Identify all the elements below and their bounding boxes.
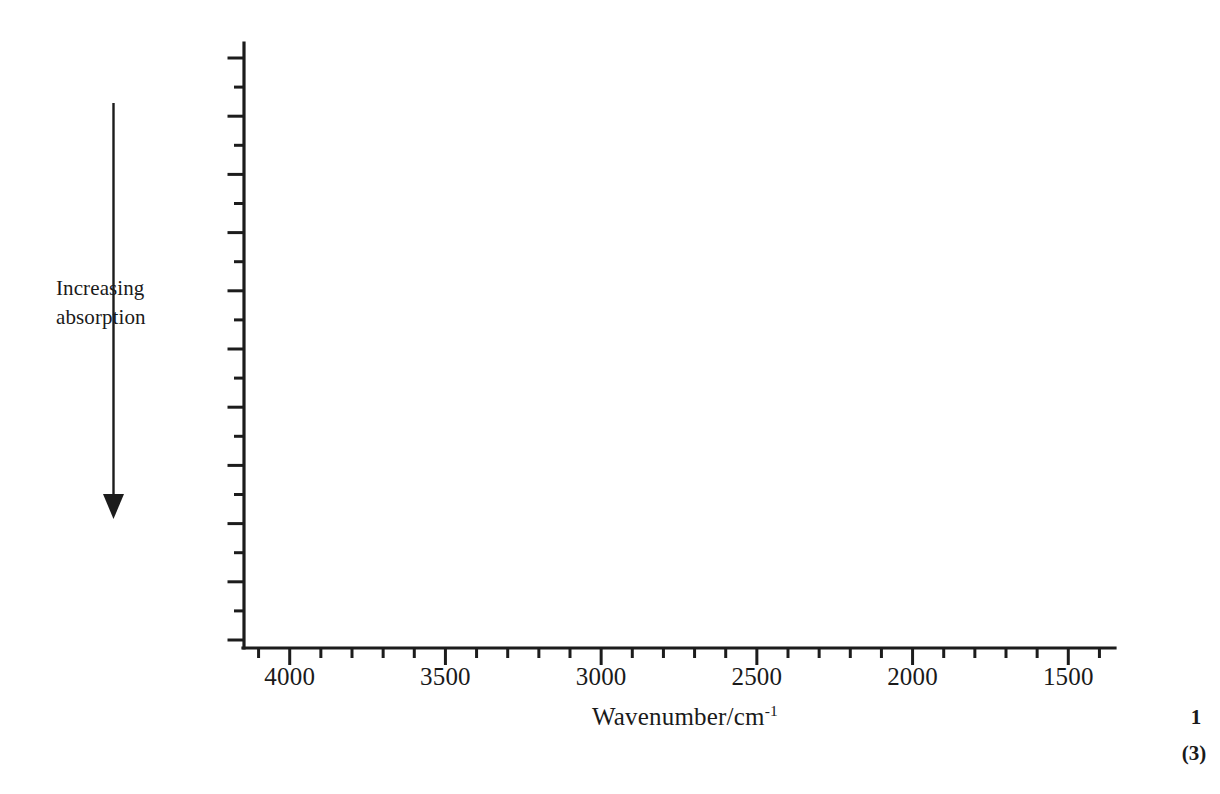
arrow-head bbox=[103, 494, 124, 519]
x-axis-tick-label: 2000 bbox=[887, 664, 938, 689]
question-marks: (3) bbox=[1182, 741, 1207, 766]
y-axis-tick-group bbox=[228, 58, 245, 640]
y-axis-title: Increasing absorption bbox=[56, 274, 206, 332]
x-axis-tick-label: 3500 bbox=[420, 664, 471, 689]
x-axis-title-text: Wavenumber/cm bbox=[592, 703, 765, 730]
y-axis-title-line-2: absorption bbox=[56, 303, 206, 332]
x-axis-tick-label: 1500 bbox=[1043, 664, 1094, 689]
x-axis-tick-group bbox=[259, 648, 1100, 665]
x-axis-tick-label: 4000 bbox=[264, 664, 315, 689]
x-axis-tick-label: 2500 bbox=[731, 664, 782, 689]
question-number: 1 bbox=[1191, 705, 1202, 730]
x-axis-title: Wavenumber/cm-1 bbox=[592, 703, 778, 731]
ir-spectrum-figure: Increasing absorption 400035003000250020… bbox=[0, 0, 1220, 794]
y-axis-title-line-1: Increasing bbox=[56, 274, 206, 303]
x-axis-tick-label: 3000 bbox=[576, 664, 627, 689]
x-axis-title-superscript: -1 bbox=[765, 702, 778, 719]
